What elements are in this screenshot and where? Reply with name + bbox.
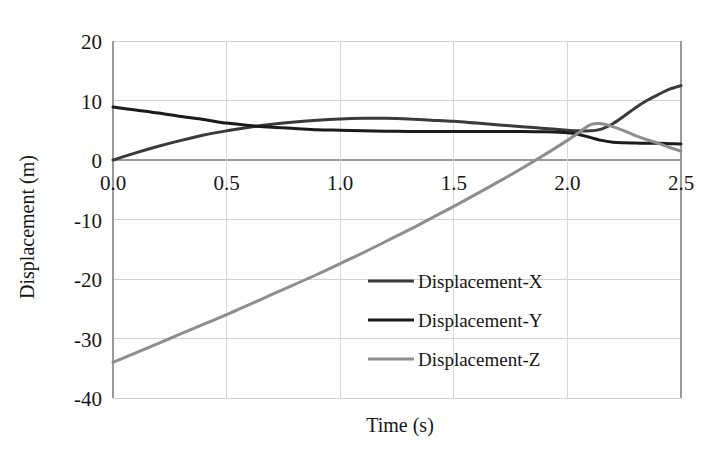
x-tick-label: 0.0 [100, 171, 126, 195]
legend-label: Displacement-Y [418, 310, 543, 331]
y-tick-label: -10 [74, 209, 102, 233]
y-tick-label: 0 [92, 149, 103, 173]
x-tick-label: 2.0 [554, 171, 580, 195]
y-tick-label: -20 [74, 268, 102, 292]
y-tick-label: 20 [81, 30, 102, 54]
chart-background [0, 0, 719, 454]
legend-label: Displacement-X [418, 271, 543, 292]
y-axis-title: Displacement (m) [16, 155, 39, 299]
y-tick-label: -40 [74, 387, 102, 411]
x-tick-label: 0.5 [213, 171, 239, 195]
x-tick-label: 1.5 [441, 171, 467, 195]
displacement-time-chart: 20100-10-20-30-40 0.00.51.01.52.02.5 Dis… [0, 0, 719, 454]
legend-label: Displacement-Z [418, 349, 540, 370]
x-tick-label: 2.5 [668, 171, 694, 195]
x-axis-title: Time (s) [366, 414, 434, 437]
x-tick-label: 1.0 [327, 171, 353, 195]
chart-canvas: 20100-10-20-30-40 0.00.51.01.52.02.5 Dis… [0, 0, 719, 454]
y-tick-label: 10 [81, 90, 102, 114]
y-tick-label: -30 [74, 328, 102, 352]
